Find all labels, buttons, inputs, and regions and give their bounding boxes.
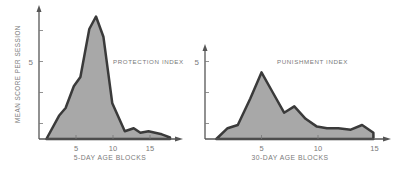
chart-canvas: 51015 5 PROTECTION INDEX 5-DAY AGE BLOCK… [0,0,404,172]
left-y-axis-arrow-icon [37,5,42,12]
protection-index-area [46,17,170,140]
right-ytick-label-5: 5 [195,58,200,67]
y-axis-label: MEAN SCORE PER SESSION [14,25,21,123]
right-x-axis-arrow-icon [383,137,391,142]
x-tick-label: 15 [370,144,378,153]
right-chart-title: PUNISHMENT INDEX [277,58,348,65]
left-chart-title: PROTECTION INDEX [113,58,184,65]
left-x-axis-label: 5-DAY AGE BLOCKS [74,154,147,161]
left-chart: 51015 5 PROTECTION INDEX 5-DAY AGE BLOCK… [14,5,184,161]
right-y-axis-arrow-icon [203,44,208,51]
x-tick-label: 10 [109,144,117,153]
left-x-axis-arrow-icon [175,137,183,142]
right-chart: 51015 5 PUNISHMENT INDEX 30-DAY AGE BLOC… [195,44,391,161]
x-tick-label: 15 [146,144,154,153]
x-tick-label: 5 [259,144,263,153]
punishment-index-area [216,72,373,139]
right-x-axis-label: 30-DAY AGE BLOCKS [251,154,328,161]
x-tick-label: 10 [314,144,322,153]
left-ytick-label-5: 5 [29,58,34,67]
x-tick-label: 5 [74,144,78,153]
